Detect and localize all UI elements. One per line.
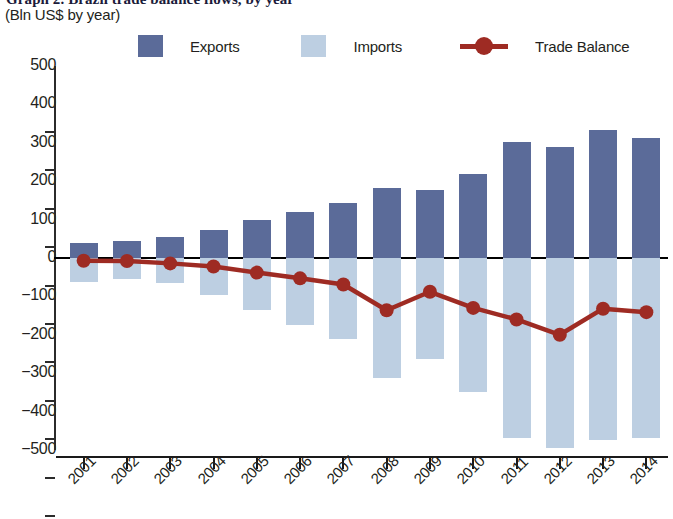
bar-imports (200, 258, 228, 295)
bar-imports (632, 258, 660, 438)
legend-item-exports: Exports (138, 35, 239, 57)
x-axis-line (56, 456, 668, 458)
bar-group (329, 66, 357, 450)
square-swatch-icon (138, 35, 163, 57)
y-tick-label: −400 (0, 402, 56, 420)
bar-group (286, 66, 314, 450)
bar-group (200, 66, 228, 450)
legend-label-exports: Exports (190, 38, 239, 55)
zero-baseline (54, 257, 668, 259)
bar-exports (416, 190, 444, 258)
bar-group (546, 66, 574, 450)
legend-item-imports: Imports (301, 35, 402, 57)
bar-imports (286, 258, 314, 325)
bar-group (632, 66, 660, 450)
bar-exports (459, 174, 487, 258)
y-tick-label: −200 (0, 325, 56, 343)
y-tick-mark (45, 169, 55, 171)
bar-imports (113, 258, 141, 279)
bar-imports (70, 258, 98, 282)
bar-exports (200, 230, 228, 258)
chart-legend: Exports Imports Trade Balance (138, 34, 629, 58)
y-tick-mark (45, 323, 55, 325)
chart-subtitle: (Bln US$ by year) (5, 6, 120, 23)
y-tick-mark (45, 285, 55, 287)
legend-label-trade-balance: Trade Balance (535, 38, 629, 55)
legend-label-imports: Imports (353, 38, 402, 55)
y-tick-mark (45, 438, 55, 440)
bar-exports (546, 147, 574, 258)
bar-exports (503, 142, 531, 258)
x-tick-label: 2011 (497, 453, 531, 487)
bar-group (459, 66, 487, 450)
y-tick-mark (45, 477, 55, 479)
square-swatch-icon (301, 35, 326, 57)
bar-exports (632, 138, 660, 258)
bar-imports (546, 258, 574, 448)
bar-imports (156, 258, 184, 283)
bar-exports (113, 241, 141, 258)
y-tick-label: 300 (0, 133, 56, 151)
bar-group (70, 66, 98, 450)
bar-group (156, 66, 184, 450)
bar-imports (329, 258, 357, 339)
bar-group (113, 66, 141, 450)
y-tick-label: 100 (0, 210, 56, 228)
bar-exports (589, 130, 617, 258)
bar-imports (243, 258, 271, 310)
bar-group (373, 66, 401, 450)
bar-imports (416, 258, 444, 359)
y-tick-label: 400 (0, 94, 56, 112)
y-tick-mark (45, 515, 55, 517)
bar-exports (286, 212, 314, 258)
bar-group (589, 66, 617, 450)
line-marker-icon (460, 35, 508, 57)
y-tick-mark (45, 400, 55, 402)
y-tick-mark (45, 246, 55, 248)
bar-imports (373, 258, 401, 378)
y-tick-label: −500 (0, 440, 56, 458)
bar-exports (243, 220, 271, 258)
bar-imports (503, 258, 531, 438)
bar-exports (329, 203, 357, 258)
bar-exports (156, 237, 184, 258)
y-tick-label: 500 (0, 56, 56, 74)
bar-group (416, 66, 444, 450)
bar-exports (373, 188, 401, 258)
y-tick-mark (45, 208, 55, 210)
bar-imports (459, 258, 487, 392)
y-tick-label: 200 (0, 171, 56, 189)
legend-item-trade-balance: Trade Balance (460, 35, 629, 57)
bar-exports (70, 243, 98, 258)
chart-plot-area (62, 66, 668, 450)
y-tick-mark (45, 131, 55, 133)
bar-imports (589, 258, 617, 440)
bar-group (243, 66, 271, 450)
y-tick-label: −300 (0, 363, 56, 381)
y-tick-label: −100 (0, 286, 56, 304)
bar-group (503, 66, 531, 450)
y-tick-label: 0 (0, 248, 56, 266)
y-tick-mark (45, 361, 55, 363)
